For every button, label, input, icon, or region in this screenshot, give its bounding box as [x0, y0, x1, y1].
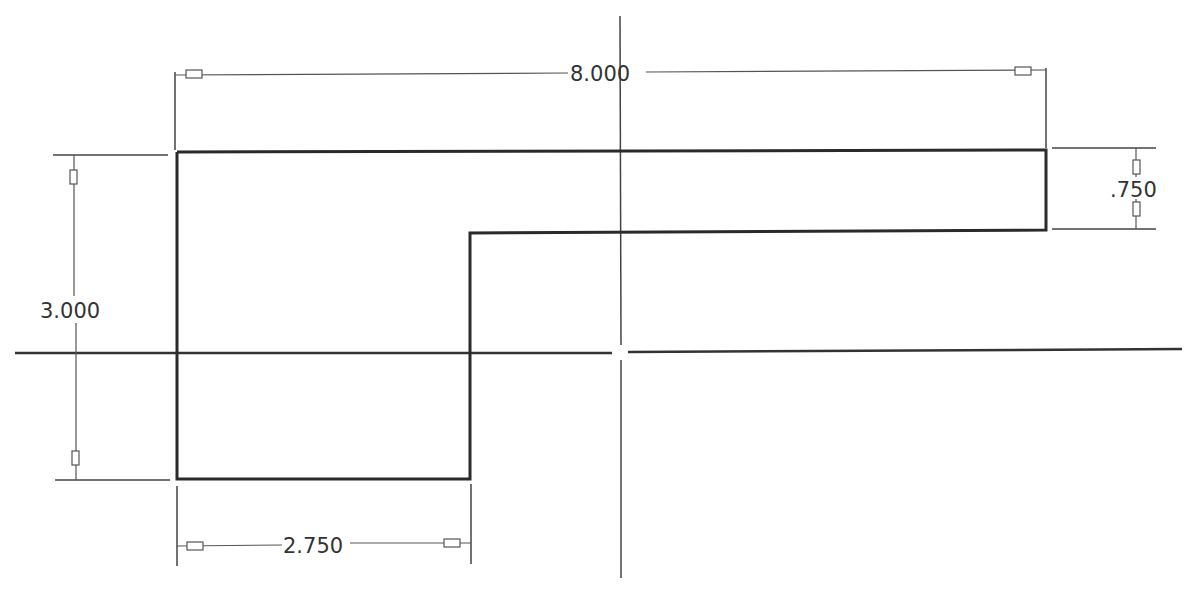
arrowhead-bottom-icon	[1133, 202, 1140, 216]
sketch-canvas: 8.000 3.000 .750 2.750	[0, 0, 1197, 590]
arrowhead-bottom-icon	[72, 451, 79, 465]
arrowhead-left-icon	[187, 542, 203, 550]
dimension-text-3000: 3.000	[40, 299, 100, 323]
dimension-text-750: .750	[1110, 178, 1157, 202]
arrowhead-top-icon	[1133, 160, 1140, 174]
arrowhead-right-icon	[1015, 67, 1031, 75]
dimension-2750[interactable]: 2.750	[177, 484, 471, 566]
dimension-text-8000: 8.000	[570, 62, 630, 86]
dimension-8000[interactable]: 8.000	[175, 62, 1046, 150]
arrowhead-top-icon	[70, 170, 77, 184]
profile-outline[interactable]	[177, 150, 1046, 479]
dimension-750[interactable]: .750	[1052, 148, 1165, 229]
arrowhead-right-icon	[444, 539, 460, 547]
dimension-text-2750: 2.750	[283, 534, 343, 558]
dimension-3000[interactable]: 3.000	[40, 155, 170, 480]
arrowhead-left-icon	[186, 70, 202, 78]
horizontal-axis-right	[628, 349, 1182, 352]
